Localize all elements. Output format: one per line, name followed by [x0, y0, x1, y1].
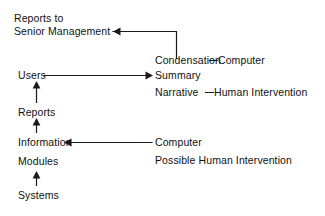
label-summary: Summary [155, 69, 201, 82]
label-condensation: Condensation [155, 54, 221, 67]
connector-computer-to-information [64, 139, 152, 147]
label-modules: Modules [18, 155, 58, 168]
arrowhead-up-modules [33, 171, 41, 179]
label-reports-to: Reports to [14, 12, 63, 25]
diagram-canvas: Reports to Senior Management Users Repor… [0, 0, 325, 216]
label-senior-management: Senior Management [14, 25, 110, 38]
label-users: Users [18, 69, 46, 82]
connector-reports-to-users [33, 81, 41, 103]
arrowhead-right-summary [146, 72, 154, 80]
label-reports: Reports [18, 106, 55, 119]
label-computer: Computer [155, 136, 202, 149]
arrowhead-up-users [33, 81, 41, 89]
label-systems: Systems [18, 189, 59, 202]
label-narrative: Narrative [155, 86, 199, 99]
connector-users-to-summary [44, 72, 153, 80]
label-narrative-source: Human Intervention [214, 86, 307, 99]
connector-systems-to-modules [33, 171, 41, 186]
connector-information-to-reports [33, 118, 41, 133]
label-information: Information [18, 136, 72, 149]
arrowhead-left-senior-management [113, 28, 121, 36]
label-possible-human-intervention: Possible Human Intervention [155, 154, 292, 167]
arrowhead-up-reports [33, 118, 41, 126]
label-condensation-source: Computer [218, 54, 265, 67]
em-dash-narrative-source [205, 92, 214, 93]
